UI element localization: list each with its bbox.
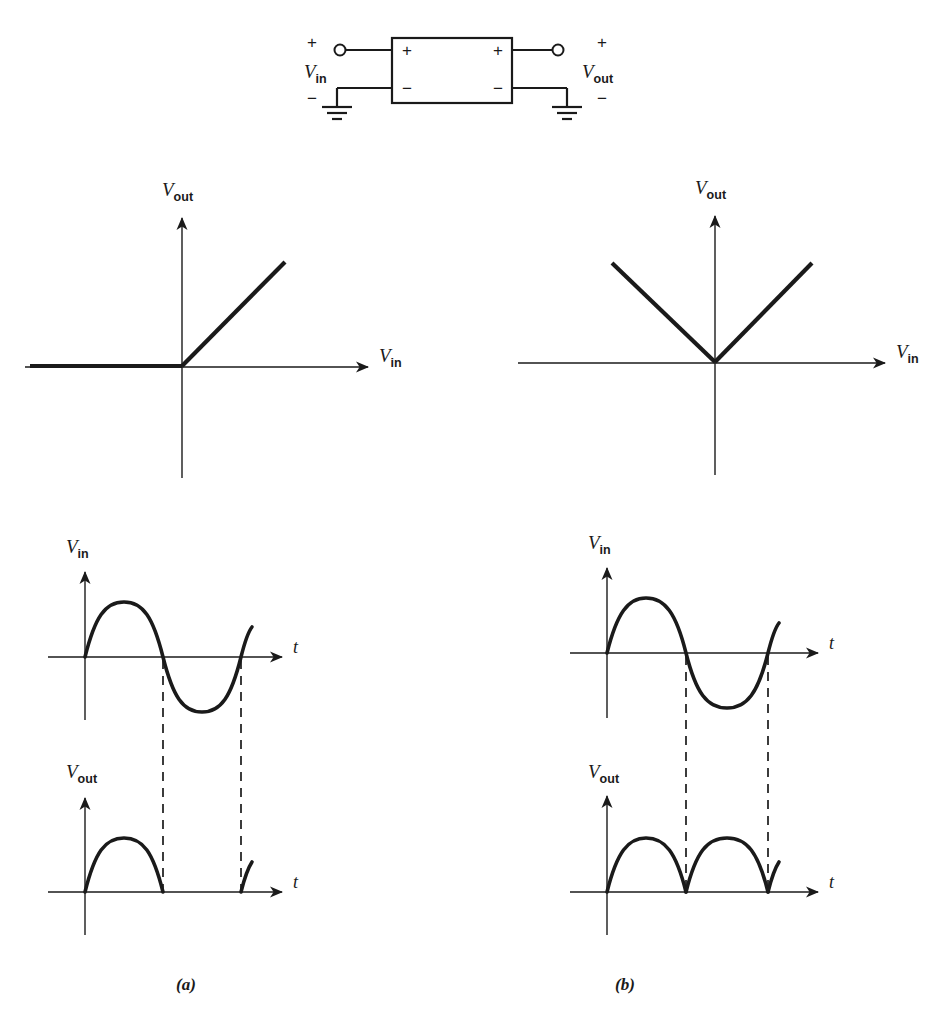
transfer-b-right-arm (715, 263, 812, 362)
transfer-b-left-arm (612, 263, 715, 362)
waveform-a-output-v-label: Vout (66, 761, 98, 786)
circuit-output-label-sub: out (594, 72, 614, 86)
block-plus-right-sign: + (493, 41, 503, 60)
caption-a: (a) (176, 975, 196, 994)
waveform-b-input: Vin t (570, 532, 835, 718)
transfer-characteristic-b: Vout Vin (518, 177, 919, 475)
transfer-a-linear-segment (182, 262, 285, 366)
waveform-b-output-next-hump-start (768, 862, 779, 892)
transfer-a-x-label: Vin (379, 345, 402, 370)
transfer-characteristic-a: Vout Vin (25, 179, 402, 478)
input-plus-sign: + (307, 33, 317, 52)
waveform-b-input-v-label: Vin (588, 532, 611, 557)
output-terminal-circle-icon (553, 45, 564, 56)
waveform-a-output-next-hump-start (241, 862, 252, 892)
waveforms-a: Vin t Vout t (a) (48, 536, 299, 994)
waveform-a-output-hump (85, 838, 163, 892)
waveform-b-output-hump-2 (686, 838, 768, 892)
block-plus-left-sign: + (402, 41, 412, 60)
input-minus-sign: − (307, 89, 317, 108)
block-minus-right-sign: − (493, 79, 503, 98)
circuit-output-label: Vout (582, 61, 614, 86)
waveform-a-output-t-label: t (293, 872, 299, 892)
transfer-a-x-label-sub: in (391, 356, 402, 370)
caption-b: (b) (615, 975, 635, 994)
input-terminal-circle-icon (335, 45, 346, 56)
two-port-circuit: + − + − + − Vin + − Vout (304, 33, 614, 119)
waveforms-b: Vin t Vout t (b (570, 532, 835, 994)
waveform-a-input-t-label: t (293, 637, 299, 657)
circuit-input-label: Vin (304, 61, 327, 86)
transfer-b-x-label: Vin (896, 341, 919, 366)
waveform-a-input-v-label-sub: in (78, 547, 89, 561)
waveform-a-input: Vin t (48, 536, 299, 720)
transfer-b-y-label: Vout (695, 177, 727, 202)
waveform-b-output-v-label: Vout (588, 761, 620, 786)
waveform-b-input-t-label: t (829, 633, 835, 653)
figure-root: + − + − + − Vin + − Vout (0, 0, 940, 1022)
waveform-a-output: Vout t (48, 761, 299, 935)
circuit-input-label-sub: in (316, 72, 327, 86)
output-ground-symbol-icon (552, 107, 582, 119)
waveform-b-input-v-label-sub: in (600, 543, 611, 557)
waveform-a-input-v-label: Vin (66, 536, 89, 561)
transfer-b-x-label-sub: in (908, 352, 919, 366)
block-minus-left-sign: − (402, 79, 412, 98)
waveform-b-output: Vout t (570, 761, 835, 935)
transfer-a-y-label-sub: out (174, 190, 194, 204)
output-plus-sign: + (597, 33, 607, 52)
waveform-b-output-hump-1 (607, 838, 686, 892)
waveform-b-output-v-label-sub: out (600, 772, 620, 786)
transfer-a-y-label: Vout (162, 179, 194, 204)
output-minus-sign: − (597, 89, 607, 108)
waveform-a-output-v-label-sub: out (78, 772, 98, 786)
input-ground-symbol-icon (322, 107, 352, 119)
waveform-b-output-t-label: t (829, 872, 835, 892)
rectifier-figure: + − + − + − Vin + − Vout (0, 0, 940, 1022)
transfer-b-y-label-sub: out (707, 188, 727, 202)
